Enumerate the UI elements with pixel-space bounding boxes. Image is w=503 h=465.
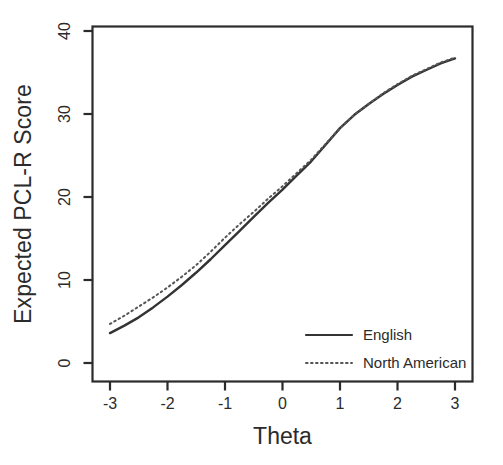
x-axis-title: Theta [92,423,473,450]
y-axis-title: Expected PCL-R Score [8,26,38,382]
x-tick-label: 1 [320,395,360,413]
y-tick-label: 0 [55,346,75,380]
x-tick-label: -3 [90,395,130,413]
y-tick-label: 40 [55,14,75,48]
chart-figure: Expected PCL-R Score Theta 010203040 -3-… [0,0,503,465]
x-tick-label: -2 [148,395,188,413]
y-axis-ticks [84,31,93,363]
legend-label-english: English [363,326,412,343]
x-tick-label: 3 [435,395,475,413]
y-tick-label: 10 [55,263,75,297]
x-tick-label: 2 [378,395,418,413]
plot-frame [93,27,473,382]
x-axis-ticks [110,382,455,391]
y-tick-label: 20 [55,180,75,214]
x-tick-label: 0 [263,395,303,413]
legend-label-north-american: North American [363,354,466,371]
plot-canvas [0,0,503,465]
data-series-group [110,58,455,334]
x-tick-label: -1 [205,395,245,413]
y-tick-label: 30 [55,97,75,131]
legend-key-lines [306,335,352,363]
